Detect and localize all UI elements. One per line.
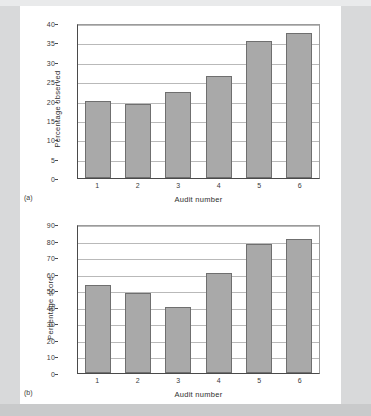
x-tick-label: 3 xyxy=(158,377,199,384)
y-tick-label: 40 xyxy=(47,304,55,311)
y-tick-mark xyxy=(55,225,58,226)
y-tick-label: 25 xyxy=(47,79,55,86)
x-axis-ticks-b: 123456 xyxy=(77,377,320,384)
y-axis-b: Percentage score 0102030405060708090 xyxy=(20,211,77,404)
bar-slot xyxy=(239,226,279,373)
x-tick-label: 2 xyxy=(118,377,159,384)
chart-panel-b: Percentage score 0102030405060708090 123… xyxy=(20,211,341,404)
panel-label-b: (b) xyxy=(24,389,33,396)
bar-audit-2 xyxy=(125,293,151,373)
bar-audit-5 xyxy=(246,41,272,178)
y-tick-label: 10 xyxy=(47,137,55,144)
x-axis-label-b: Audit number xyxy=(77,390,320,399)
y-tick-mark xyxy=(55,324,58,325)
plot-area-b xyxy=(77,225,320,374)
y-tick-mark xyxy=(55,102,58,103)
bar-slot xyxy=(78,25,118,178)
bar-audit-2 xyxy=(125,104,151,178)
x-tick-label: 1 xyxy=(77,182,118,189)
x-tick-label: 4 xyxy=(199,182,240,189)
bar-slot xyxy=(158,25,198,178)
bar-slot xyxy=(199,226,239,373)
x-tick-label: 5 xyxy=(239,377,280,384)
bar-slot xyxy=(199,25,239,178)
y-tick-mark xyxy=(55,24,58,25)
bar-audit-1 xyxy=(85,285,111,373)
y-tick-mark xyxy=(55,357,58,358)
y-tick-label: 30 xyxy=(47,59,55,66)
y-tick-label: 70 xyxy=(47,255,55,262)
x-axis-ticks-a: 123456 xyxy=(77,182,320,189)
y-tick-mark xyxy=(55,341,58,342)
y-tick-mark xyxy=(55,179,58,180)
y-tick-label: 20 xyxy=(47,337,55,344)
y-tick-mark xyxy=(55,242,58,243)
bar-audit-6 xyxy=(286,239,312,373)
panel-label-a: (a) xyxy=(24,194,33,201)
y-axis-a: Percentage observed 0510152025303540 xyxy=(20,10,77,208)
y-tick-mark xyxy=(55,160,58,161)
y-tick-mark xyxy=(55,82,58,83)
chart-panel-a: Percentage observed 0510152025303540 123… xyxy=(20,10,341,208)
y-tick-mark xyxy=(55,308,58,309)
y-tick-mark xyxy=(55,43,58,44)
y-tick-mark xyxy=(55,275,58,276)
bar-slot xyxy=(118,226,158,373)
y-tick-label: 90 xyxy=(47,222,55,229)
plot-area-a xyxy=(77,24,320,179)
y-tick-mark xyxy=(55,291,58,292)
bar-group-a xyxy=(78,25,319,178)
y-tick-label: 40 xyxy=(47,21,55,28)
y-tick-label: 35 xyxy=(47,40,55,47)
x-tick-label: 1 xyxy=(77,377,118,384)
x-tick-label: 6 xyxy=(280,377,321,384)
bar-audit-4 xyxy=(206,273,232,373)
y-tick-mark xyxy=(55,258,58,259)
y-tick-label: 10 xyxy=(47,354,55,361)
bar-slot xyxy=(279,226,319,373)
x-axis-label-a: Audit number xyxy=(77,195,320,204)
y-tick-mark xyxy=(55,374,58,375)
x-tick-label: 5 xyxy=(239,182,280,189)
bar-slot xyxy=(158,226,198,373)
y-tick-label: 50 xyxy=(47,288,55,295)
y-tick-label: 30 xyxy=(47,321,55,328)
bar-slot xyxy=(279,25,319,178)
y-tick-mark xyxy=(55,140,58,141)
bar-audit-3 xyxy=(165,307,191,373)
y-tick-mark xyxy=(55,63,58,64)
x-tick-label: 6 xyxy=(280,182,321,189)
bar-audit-4 xyxy=(206,76,232,178)
y-tick-mark xyxy=(55,121,58,122)
bar-slot xyxy=(239,25,279,178)
bar-chart-b: Percentage score 0102030405060708090 123… xyxy=(20,211,341,404)
bar-audit-1 xyxy=(85,101,111,179)
bar-chart-a: Percentage observed 0510152025303540 123… xyxy=(20,10,341,208)
bar-group-b xyxy=(78,226,319,373)
y-tick-label: 15 xyxy=(47,117,55,124)
bar-slot xyxy=(118,25,158,178)
y-tick-label: 20 xyxy=(47,98,55,105)
scan-edge-bottom xyxy=(0,404,371,416)
bar-audit-3 xyxy=(165,92,191,178)
x-tick-label: 2 xyxy=(118,182,159,189)
figure-page: Percentage observed 0510152025303540 123… xyxy=(20,6,341,404)
bar-slot xyxy=(78,226,118,373)
x-tick-label: 4 xyxy=(199,377,240,384)
y-tick-label: 80 xyxy=(47,238,55,245)
bar-audit-5 xyxy=(246,244,272,373)
x-tick-label: 3 xyxy=(158,182,199,189)
y-tick-label: 60 xyxy=(47,271,55,278)
bar-audit-6 xyxy=(286,33,312,178)
